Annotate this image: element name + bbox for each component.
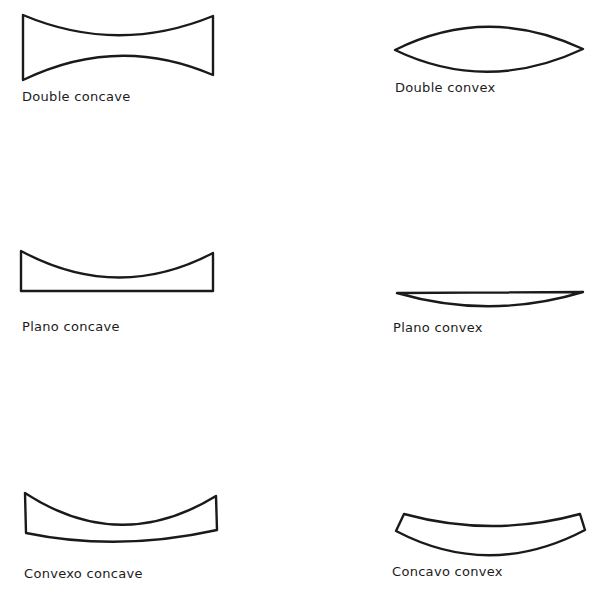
convexo-concave-shape	[25, 493, 217, 542]
convexo-concave-label: Convexo concave	[24, 566, 143, 581]
double-concave-label: Double concave	[22, 89, 131, 104]
concavo-convex-label: Concavo convex	[392, 564, 503, 579]
plano-convex-shape	[397, 292, 583, 306]
plano-convex-label: Plano convex	[393, 320, 483, 335]
double-convex-shape	[395, 27, 583, 72]
lens-types-diagram: Double concave Double convex Plano conca…	[0, 0, 596, 596]
plano-concave-label: Plano concave	[22, 319, 120, 334]
concavo-convex-shape	[396, 514, 585, 555]
plano-concave-shape	[21, 251, 213, 291]
double-convex-label: Double convex	[395, 80, 496, 95]
double-concave-shape	[23, 15, 213, 80]
